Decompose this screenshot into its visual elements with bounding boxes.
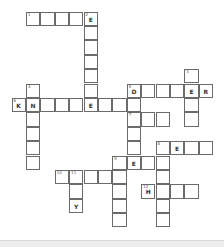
crossword-cell[interactable]: [127, 98, 141, 112]
cell-letter: E: [171, 145, 183, 153]
crossword-grid: 12E3E45DR6KNE78E9E1011Y12H: [0, 0, 224, 240]
cell-letter: E: [128, 160, 140, 168]
cell-letter: R: [200, 88, 212, 96]
crossword-cell[interactable]: [84, 69, 98, 83]
crossword-cell[interactable]: [199, 141, 213, 155]
crossword-cell[interactable]: N: [26, 98, 40, 112]
clue-number: 3: [186, 70, 189, 74]
cell-letter: D: [128, 88, 140, 96]
crossword-cell[interactable]: [127, 127, 141, 141]
crossword-cell[interactable]: [127, 141, 141, 155]
crossword-cell[interactable]: [156, 213, 170, 227]
crossword-cell[interactable]: [26, 112, 40, 126]
crossword-cell[interactable]: [184, 98, 198, 112]
crossword-cell[interactable]: [26, 156, 40, 170]
crossword-cell[interactable]: [40, 98, 54, 112]
crossword-cell[interactable]: [156, 199, 170, 213]
crossword-cell[interactable]: [170, 84, 184, 98]
crossword-cell[interactable]: 10: [55, 170, 69, 184]
crossword-cell[interactable]: 1: [26, 12, 40, 26]
crossword-cell[interactable]: [112, 199, 126, 213]
crossword-cell[interactable]: [26, 141, 40, 155]
clue-number: 10: [57, 171, 62, 175]
crossword-cell[interactable]: [184, 141, 198, 155]
crossword-cell[interactable]: [84, 84, 98, 98]
crossword-cell[interactable]: E: [84, 98, 98, 112]
clue-number: 7: [129, 113, 132, 117]
crossword-cell[interactable]: 2E: [84, 12, 98, 26]
crossword-cell[interactable]: E: [184, 84, 198, 98]
crossword-cell[interactable]: 7: [127, 112, 141, 126]
crossword-cell[interactable]: [55, 98, 69, 112]
clue-number: 8: [158, 142, 161, 146]
crossword-cell[interactable]: Y: [69, 199, 83, 213]
cell-letter: Y: [70, 203, 82, 211]
crossword-cell[interactable]: [69, 12, 83, 26]
crossword-cell[interactable]: [184, 184, 198, 198]
crossword-cell[interactable]: 3: [184, 69, 198, 83]
crossword-cell[interactable]: [156, 170, 170, 184]
crossword-cell[interactable]: [112, 170, 126, 184]
crossword-cell[interactable]: R: [199, 84, 213, 98]
crossword-cell[interactable]: [55, 12, 69, 26]
crossword-cell[interactable]: 11: [69, 170, 83, 184]
crossword-cell[interactable]: [112, 184, 126, 198]
crossword-cell[interactable]: [40, 12, 54, 26]
crossword-cell[interactable]: 4: [26, 84, 40, 98]
cell-letter: E: [85, 16, 97, 24]
crossword-cell[interactable]: [98, 98, 112, 112]
cell-letter: H: [142, 188, 154, 196]
crossword-cell[interactable]: E: [170, 141, 184, 155]
crossword-cell[interactable]: [170, 184, 184, 198]
clue-number: 11: [71, 171, 76, 175]
crossword-cell[interactable]: [112, 98, 126, 112]
crossword-cell[interactable]: [156, 112, 170, 126]
crossword-cell[interactable]: [98, 170, 112, 184]
crossword-cell[interactable]: [69, 98, 83, 112]
clue-number: 1: [28, 13, 31, 17]
cell-letter: N: [27, 102, 39, 110]
crossword-cell[interactable]: E: [127, 156, 141, 170]
crossword-cell[interactable]: 12H: [141, 184, 155, 198]
crossword-cell[interactable]: [26, 127, 40, 141]
cell-letter: K: [13, 102, 25, 110]
crossword-cell[interactable]: [84, 26, 98, 40]
crossword-cell[interactable]: [156, 156, 170, 170]
crossword-cell[interactable]: [84, 40, 98, 54]
crossword-cell[interactable]: 9: [112, 156, 126, 170]
crossword-cell[interactable]: 5D: [127, 84, 141, 98]
crossword-cell[interactable]: [112, 213, 126, 227]
crossword-cell[interactable]: [84, 55, 98, 69]
clue-number: 9: [114, 157, 117, 161]
crossword-cell[interactable]: [141, 84, 155, 98]
crossword-cell[interactable]: [156, 84, 170, 98]
crossword-cell[interactable]: [184, 112, 198, 126]
crossword-cell[interactable]: [141, 112, 155, 126]
crossword-cell[interactable]: [141, 156, 155, 170]
crossword-cell[interactable]: 8: [156, 141, 170, 155]
bottom-bar: [0, 240, 224, 247]
crossword-cell[interactable]: 6K: [12, 98, 26, 112]
crossword-cell[interactable]: [84, 170, 98, 184]
crossword-cell[interactable]: [69, 184, 83, 198]
clue-number: 4: [28, 85, 31, 89]
cell-letter: E: [85, 102, 97, 110]
crossword-cell[interactable]: [156, 184, 170, 198]
cell-letter: E: [185, 88, 197, 96]
